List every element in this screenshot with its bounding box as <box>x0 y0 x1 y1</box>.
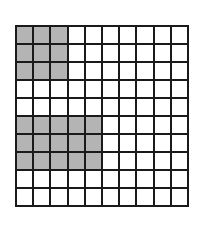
grid-cell <box>172 45 187 61</box>
grid-cell <box>69 117 84 133</box>
grid-cell <box>17 81 32 97</box>
grid-cell <box>51 45 66 61</box>
grid-cell <box>17 63 32 79</box>
grid-cell <box>155 63 170 79</box>
grid-cell <box>86 171 101 187</box>
grid-cell <box>155 171 170 187</box>
grid-cell <box>172 171 187 187</box>
grid-cell <box>172 117 187 133</box>
grid-cell <box>103 117 118 133</box>
grid-cell <box>137 27 152 43</box>
grid-cell <box>137 63 152 79</box>
grid-cell <box>137 171 152 187</box>
grid-cell <box>51 117 66 133</box>
grid-cell <box>51 189 66 205</box>
grid-cell <box>103 171 118 187</box>
grid-cell <box>86 45 101 61</box>
grid-cell <box>86 63 101 79</box>
grid-cell <box>51 63 66 79</box>
grid-cell <box>69 171 84 187</box>
grid-cell <box>69 27 84 43</box>
grid-cell <box>34 171 49 187</box>
grid-cell <box>137 117 152 133</box>
grid-cell <box>86 189 101 205</box>
grid-cell <box>17 45 32 61</box>
grid-cell <box>69 189 84 205</box>
grid-cell <box>17 135 32 151</box>
grid-cell <box>17 153 32 169</box>
grid-cell <box>86 117 101 133</box>
grid-cell <box>51 99 66 115</box>
grid-cell <box>120 153 135 169</box>
grid-cell <box>103 99 118 115</box>
grid-cell <box>17 117 32 133</box>
grid-cell <box>51 27 66 43</box>
grid-cell <box>155 81 170 97</box>
grid-cell <box>17 189 32 205</box>
grid-cell <box>155 135 170 151</box>
grid-cell <box>86 81 101 97</box>
grid-cell <box>51 153 66 169</box>
grid-cell <box>34 135 49 151</box>
grid-cell <box>69 45 84 61</box>
grid-cell <box>137 45 152 61</box>
grid-cell <box>17 27 32 43</box>
grid-cell <box>86 99 101 115</box>
grid-cell <box>120 99 135 115</box>
grid-cell <box>69 99 84 115</box>
grid-cell <box>172 81 187 97</box>
grid-cell <box>137 153 152 169</box>
grid-cell <box>120 63 135 79</box>
grid-cell <box>69 153 84 169</box>
hundred-grid <box>15 25 189 207</box>
grid-cell <box>51 135 66 151</box>
grid-cell <box>103 81 118 97</box>
grid-cell <box>137 189 152 205</box>
grid-cell <box>137 99 152 115</box>
grid-cell <box>103 153 118 169</box>
grid-cell <box>103 27 118 43</box>
grid-cell <box>172 27 187 43</box>
grid-cell <box>86 153 101 169</box>
grid-cell <box>120 81 135 97</box>
grid-cell <box>120 27 135 43</box>
grid-cell <box>155 117 170 133</box>
grid-cell <box>17 99 32 115</box>
grid-cell <box>155 153 170 169</box>
grid-cell <box>17 171 32 187</box>
grid-cell <box>103 135 118 151</box>
grid-cell <box>103 45 118 61</box>
grid-cell <box>86 27 101 43</box>
grid-cell <box>120 135 135 151</box>
grid-cell <box>155 189 170 205</box>
grid-cell <box>51 81 66 97</box>
grid-cell <box>155 99 170 115</box>
grid-cell <box>120 189 135 205</box>
grid-cell <box>172 63 187 79</box>
grid-cell <box>120 117 135 133</box>
grid-cell <box>120 45 135 61</box>
grid-cell <box>155 27 170 43</box>
grid-cell <box>155 45 170 61</box>
grid-cell <box>34 189 49 205</box>
grid-cell <box>172 189 187 205</box>
grid-cell <box>172 99 187 115</box>
grid-cell <box>69 63 84 79</box>
grid-cell <box>69 135 84 151</box>
grid-cell <box>34 99 49 115</box>
grid-cell <box>103 63 118 79</box>
grid-cell <box>137 135 152 151</box>
grid-cell <box>86 135 101 151</box>
grid-cell <box>69 81 84 97</box>
grid-cell <box>172 153 187 169</box>
grid-cell <box>34 81 49 97</box>
grid-cell <box>120 171 135 187</box>
grid-cell <box>34 153 49 169</box>
grid-cell <box>172 135 187 151</box>
grid-cell <box>34 117 49 133</box>
grid-cell <box>103 189 118 205</box>
grid-cell <box>34 27 49 43</box>
grid-cell <box>34 45 49 61</box>
grid-cell <box>137 81 152 97</box>
grid-cell <box>51 171 66 187</box>
